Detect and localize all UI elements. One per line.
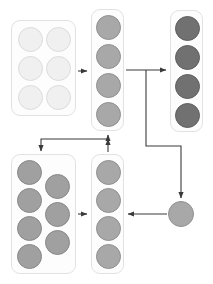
- group-stage-five[interactable]: [91, 154, 124, 274]
- group-stage-five-node-3[interactable]: [96, 216, 121, 241]
- group-stage-five-node-1[interactable]: [96, 160, 121, 185]
- group-stage-three[interactable]: [170, 10, 203, 132]
- group-input-pool-node-1[interactable]: [18, 27, 43, 52]
- group-staggered-pool[interactable]: [11, 154, 76, 274]
- group-stage-three-node-1[interactable]: [175, 16, 200, 41]
- group-input-pool[interactable]: [11, 20, 76, 116]
- group-input-pool-node-2[interactable]: [46, 27, 71, 52]
- group-stage-two-node-1[interactable]: [96, 15, 121, 40]
- group-stage-five-node-2[interactable]: [96, 188, 121, 213]
- group-stage-two-node-4[interactable]: [96, 102, 121, 127]
- group-stage-five-node-4[interactable]: [96, 244, 121, 269]
- group-staggered-pool-node-4[interactable]: [45, 202, 70, 227]
- group-stage-two[interactable]: [91, 9, 124, 131]
- node-aggregate[interactable]: [168, 201, 194, 227]
- group-input-pool-node-3[interactable]: [18, 56, 43, 81]
- group-staggered-pool-node-5[interactable]: [17, 216, 42, 241]
- group-stage-two-node-3[interactable]: [96, 73, 121, 98]
- group-staggered-pool-node-7[interactable]: [17, 244, 42, 269]
- group-stage-three-node-4[interactable]: [175, 103, 200, 128]
- group-input-pool-node-5[interactable]: [18, 85, 43, 110]
- group-stage-three-node-2[interactable]: [175, 45, 200, 70]
- group-staggered-pool-node-1[interactable]: [17, 160, 42, 185]
- group-input-pool-node-6[interactable]: [46, 85, 71, 110]
- group-input-pool-node-4[interactable]: [46, 56, 71, 81]
- group-stage-three-node-3[interactable]: [175, 74, 200, 99]
- group-staggered-pool-node-3[interactable]: [17, 188, 42, 213]
- group-stage-two-node-2[interactable]: [96, 44, 121, 69]
- group-staggered-pool-node-2[interactable]: [45, 174, 70, 199]
- diagram-canvas: [0, 0, 213, 284]
- group-staggered-pool-node-6[interactable]: [45, 230, 70, 255]
- edge-feedback-to-staggered: [41, 139, 108, 151]
